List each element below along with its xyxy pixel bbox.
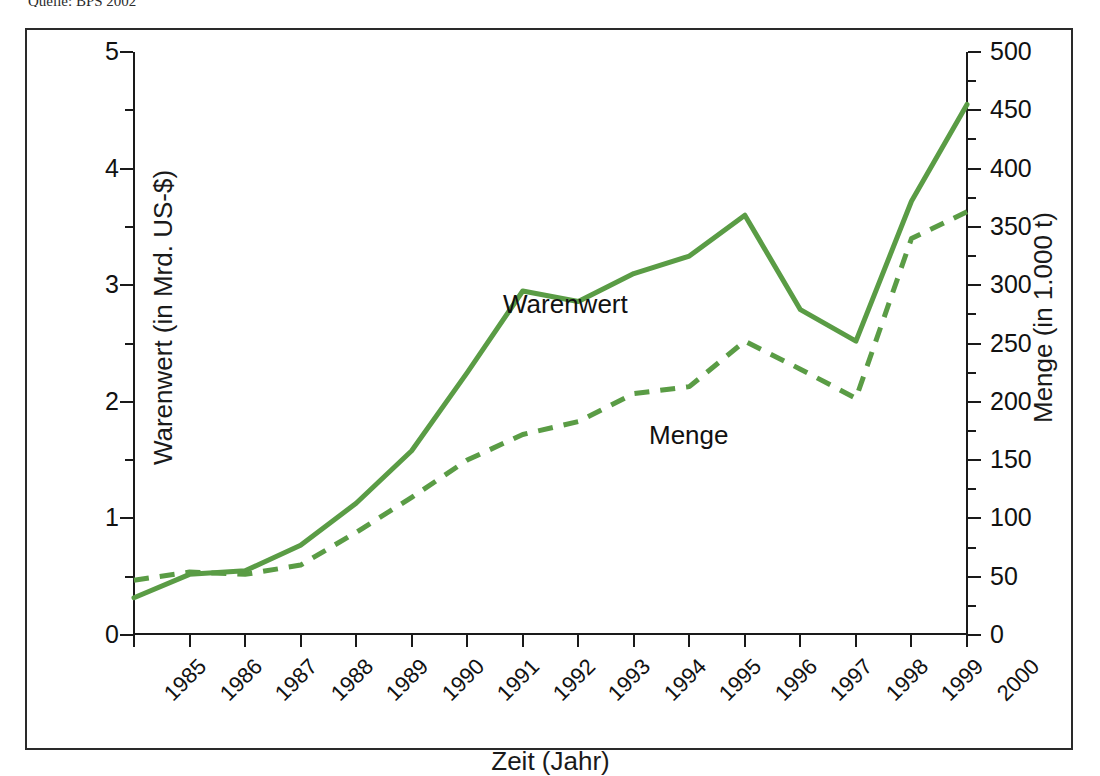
right-axis-title: Menge (in 1.000 t) — [1028, 38, 1059, 598]
right-tick-minor — [968, 197, 976, 199]
x-tick-label-2000: 2000 — [993, 655, 1043, 705]
left-tick-minor — [125, 109, 133, 111]
x-tick-label-1988: 1988 — [327, 655, 377, 705]
right-tick-minor — [968, 255, 976, 257]
line-menge — [134, 212, 967, 580]
right-tick-label: 350 — [990, 214, 1032, 239]
x-tick — [633, 635, 635, 647]
x-tick — [300, 635, 302, 647]
right-tick-major — [968, 109, 981, 111]
left-tick-label: 1 — [105, 505, 119, 530]
plot-area: 012345 050100150200250300350400450500 Wa… — [133, 52, 968, 635]
right-tick-label: 0 — [990, 622, 1004, 647]
x-tick-label-1987: 1987 — [271, 655, 321, 705]
x-tick — [189, 635, 191, 647]
x-tick — [244, 635, 246, 647]
x-tick — [411, 635, 413, 647]
left-tick-minor — [125, 459, 133, 461]
series-lines — [133, 52, 968, 635]
right-tick-major — [968, 401, 981, 403]
line-warenwert — [134, 104, 967, 597]
x-tick — [577, 635, 579, 647]
right-tick-minor — [968, 488, 976, 490]
x-tick-label-1991: 1991 — [494, 655, 544, 705]
right-tick-major — [968, 517, 981, 519]
left-tick-major — [120, 401, 133, 403]
left-tick-major — [120, 517, 133, 519]
right-tick-major — [968, 576, 981, 578]
x-tick-label-1997: 1997 — [827, 655, 877, 705]
right-tick-major — [968, 634, 981, 636]
right-tick-major — [968, 168, 981, 170]
right-tick-major — [968, 343, 981, 345]
x-tick-label-1998: 1998 — [882, 655, 932, 705]
left-tick-label: 3 — [105, 272, 119, 297]
figure-frame: 012345 050100150200250300350400450500 Wa… — [25, 28, 1073, 750]
right-tick-minor — [968, 605, 976, 607]
left-tick-major — [120, 51, 133, 53]
right-tick-label: 150 — [990, 447, 1032, 472]
right-tick-major — [968, 459, 981, 461]
left-tick-label: 4 — [105, 156, 119, 181]
right-tick-label: 300 — [990, 272, 1032, 297]
x-tick — [133, 635, 135, 647]
x-tick-label-1995: 1995 — [716, 655, 766, 705]
series-label-warenwert: Warenwert — [503, 291, 628, 317]
x-tick-label-1994: 1994 — [660, 655, 710, 705]
left-tick-minor — [125, 576, 133, 578]
right-tick-minor — [968, 138, 976, 140]
x-tick — [688, 635, 690, 647]
left-tick-minor — [125, 343, 133, 345]
x-tick — [966, 635, 968, 647]
x-tick — [744, 635, 746, 647]
right-tick-label: 500 — [990, 39, 1032, 64]
x-tick — [522, 635, 524, 647]
left-tick-label: 2 — [105, 389, 119, 414]
x-tick — [855, 635, 857, 647]
x-tick-label-1996: 1996 — [771, 655, 821, 705]
x-tick-label-1992: 1992 — [549, 655, 599, 705]
right-tick-minor — [968, 430, 976, 432]
right-tick-label: 100 — [990, 505, 1032, 530]
x-tick-label-1985: 1985 — [160, 655, 210, 705]
series-label-menge: Menge — [649, 422, 729, 448]
x-tick-label-1999: 1999 — [938, 655, 988, 705]
left-tick-major — [120, 634, 133, 636]
right-tick-minor — [968, 80, 976, 82]
x-tick — [355, 635, 357, 647]
right-tick-label: 200 — [990, 389, 1032, 414]
x-tick — [910, 635, 912, 647]
right-tick-label: 400 — [990, 156, 1032, 181]
left-tick-major — [120, 284, 133, 286]
left-tick-major — [120, 168, 133, 170]
right-tick-minor — [968, 547, 976, 549]
x-tick-label-1989: 1989 — [382, 655, 432, 705]
x-tick — [466, 635, 468, 647]
right-tick-label: 250 — [990, 331, 1032, 356]
source-note: Quelle: BPS 2002 — [28, 0, 136, 7]
left-axis-title: Warenwert (in Mrd. US-$) — [148, 38, 179, 598]
right-tick-major — [968, 226, 981, 228]
right-tick-label: 50 — [990, 564, 1018, 589]
x-tick-label-1986: 1986 — [216, 655, 266, 705]
left-tick-label: 5 — [105, 39, 119, 64]
x-tick — [799, 635, 801, 647]
bottom-axis-title: Zeit (Jahr) — [133, 746, 968, 776]
x-tick-label-1990: 1990 — [438, 655, 488, 705]
right-tick-major — [968, 284, 981, 286]
left-tick-minor — [125, 226, 133, 228]
x-tick-label-1993: 1993 — [605, 655, 655, 705]
right-tick-minor — [968, 313, 976, 315]
right-tick-label: 450 — [990, 97, 1032, 122]
left-tick-label: 0 — [105, 622, 119, 647]
right-tick-minor — [968, 372, 976, 374]
right-tick-major — [968, 51, 981, 53]
